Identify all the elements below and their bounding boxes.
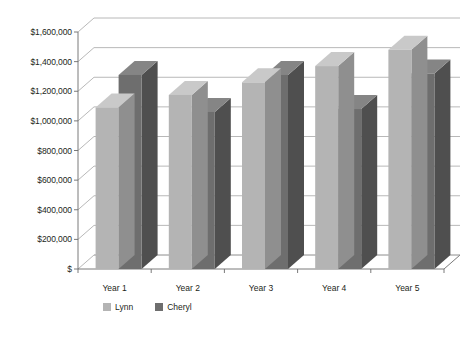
bar-lynn-year-3 (242, 68, 281, 269)
x-axis-tick-label: Year 4 (322, 283, 346, 293)
chart-legend: LynnCheryl (103, 303, 192, 312)
legend-item-cheryl[interactable]: Cheryl (155, 303, 192, 312)
x-tick-marks (78, 269, 444, 273)
plot-area: $$200,000$400,000$600,000$800,000$1,000,… (0, 0, 465, 337)
chart-container: $$200,000$400,000$600,000$800,000$1,000,… (0, 0, 465, 337)
y-axis-tick-label: $800,000 (37, 146, 72, 156)
bar-lynn-year-1 (96, 94, 135, 269)
y-axis-tick-label: $600,000 (37, 175, 72, 185)
y-axis-tick-label: $1,200,000 (30, 86, 72, 96)
y-axis-tick-label: $1,600,000 (30, 27, 72, 37)
x-axis-tick-label: Year 1 (102, 283, 126, 293)
legend-swatch-icon (155, 303, 163, 311)
y-axis-tick-label: $400,000 (37, 205, 72, 215)
legend-item-lynn[interactable]: Lynn (103, 303, 133, 312)
legend-label: Lynn (115, 303, 133, 312)
legend-swatch-icon (103, 303, 111, 311)
y-axis-tick-label: $1,400,000 (30, 57, 72, 67)
x-axis-tick-label: Year 3 (249, 283, 273, 293)
x-axis-tick-label: Year 2 (176, 283, 200, 293)
y-axis-tick-label: $ (67, 264, 72, 274)
bar-lynn-year-4 (315, 52, 354, 269)
bar-lynn-year-5 (388, 36, 427, 269)
x-axis-labels: Year 1Year 2Year 3Year 4Year 5 (0, 283, 465, 297)
bars-group (96, 36, 451, 269)
y-axis-tick-label: $1,000,000 (30, 116, 72, 126)
legend-label: Cheryl (167, 303, 192, 312)
x-axis-tick-label: Year 5 (395, 283, 419, 293)
y-axis-tick-label: $200,000 (37, 234, 72, 244)
bar-lynn-year-2 (169, 81, 208, 269)
